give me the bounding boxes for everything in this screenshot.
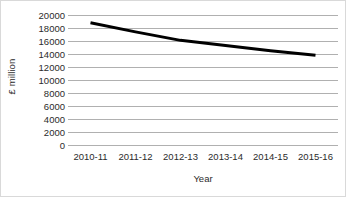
y-axis-tick-label: 6000 bbox=[19, 101, 65, 112]
x-axis-tick-labels: 2010-112011-122012-132013-142014-152015-… bbox=[68, 151, 338, 167]
y-axis-tick-label: 4000 bbox=[19, 114, 65, 125]
y-axis-tick-label: 10000 bbox=[19, 75, 65, 86]
line-chart: £ million 200001800016000140001200010000… bbox=[0, 0, 346, 197]
y-axis-tick-label: 16000 bbox=[19, 36, 65, 47]
y-axis-tick-label: 20000 bbox=[19, 10, 65, 21]
x-axis-tick-label: 2011-12 bbox=[118, 151, 152, 162]
y-axis-title-label: £ million bbox=[7, 58, 18, 94]
x-axis-tick-label: 2010-11 bbox=[73, 151, 107, 162]
y-axis-title: £ million bbox=[5, 1, 19, 151]
x-axis-tick-label: 2012-13 bbox=[163, 151, 198, 162]
plot-area bbox=[68, 15, 338, 145]
y-axis-tick-label: 18000 bbox=[19, 23, 65, 34]
series-line bbox=[91, 23, 316, 56]
gridline bbox=[68, 145, 338, 146]
x-axis-tick-label: 2013-14 bbox=[208, 151, 243, 162]
x-axis-tick-label: 2014-15 bbox=[253, 151, 288, 162]
y-axis-tick-label: 14000 bbox=[19, 49, 65, 60]
y-axis-tick-label: 2000 bbox=[19, 127, 65, 138]
y-axis-tick-label: 8000 bbox=[19, 88, 65, 99]
x-axis-tick-label: 2015-16 bbox=[298, 151, 333, 162]
series-line-group bbox=[68, 15, 338, 145]
x-axis-title: Year bbox=[68, 173, 338, 184]
y-axis-tick-label: 12000 bbox=[19, 62, 65, 73]
y-axis-tick-labels: 2000018000160001400012000100008000600040… bbox=[19, 1, 65, 151]
y-axis-tick-label: 0 bbox=[19, 140, 65, 151]
